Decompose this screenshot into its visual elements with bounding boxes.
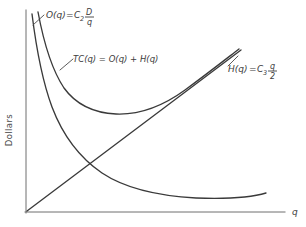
x-axis-label: q <box>292 207 298 217</box>
holding-cost-lhs: H(q) <box>228 64 248 74</box>
chart-figure: O(q) = C 2 D q TC(q) = O(q) + H(q) H(q) … <box>0 0 306 227</box>
ordering-cost-coefficient-subscript: 2 <box>80 15 84 23</box>
ordering-cost-lhs: O(q) <box>46 10 66 20</box>
total-cost-label: TC(q) = O(q) + H(q) <box>73 54 158 64</box>
holding-cost-equals: = <box>249 64 257 74</box>
holding-cost-denominator: 2 <box>270 72 275 81</box>
holding-cost-numerator: q <box>270 62 275 71</box>
ordering-cost-equals: = <box>66 10 74 20</box>
holding-cost-coefficient-subscript: 3 <box>263 69 267 77</box>
ordering-cost-numerator: D <box>86 8 92 17</box>
y-axis-label: Dollars <box>4 114 14 147</box>
total-cost-annotation: TC(q) = O(q) + H(q) <box>73 54 158 64</box>
ordering-cost-denominator: q <box>87 18 92 27</box>
cost-curves-chart: O(q) = C 2 D q TC(q) = O(q) + H(q) H(q) … <box>0 0 306 227</box>
